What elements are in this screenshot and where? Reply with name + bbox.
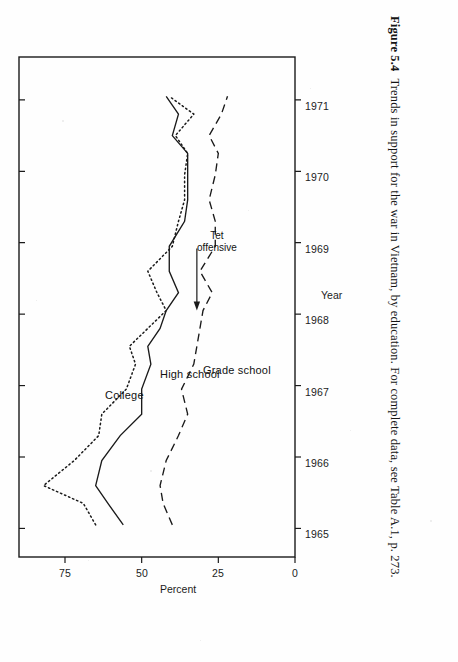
scan-speck: [36, 300, 37, 301]
scan-speck: [62, 120, 64, 122]
plot-area: 19651966196719681969197019710255075YearP…: [9, 43, 339, 603]
ytick-label-50: 50: [136, 567, 148, 579]
figure-number: Figure 5.4: [388, 16, 402, 71]
caption-text: Trends in support for the war in Vietnam…: [388, 78, 402, 577]
series-line-grade-school: [160, 96, 227, 525]
ytick-label-25: 25: [212, 567, 224, 579]
xtick-label-1970: 1970: [305, 171, 329, 183]
ytick-label-0: 0: [292, 567, 298, 579]
xtick-label-1965: 1965: [305, 528, 329, 540]
xtick-label-1968: 1968: [305, 314, 329, 326]
ytick-label-75: 75: [59, 567, 71, 579]
scan-speck: [310, 88, 311, 89]
tet-arrow-head: [194, 302, 200, 311]
chart-canvas: [9, 43, 339, 603]
scan-speck: [248, 210, 249, 211]
tet-offensive-annotation: Tetoffensive: [197, 229, 237, 252]
scan-speck: [88, 560, 89, 561]
figure-block: 19651966196719681969197019710255075YearP…: [9, 43, 339, 603]
series-label-college: College: [105, 389, 144, 401]
tet-annotation-line-1: Tet: [197, 229, 237, 241]
scan-speck: [150, 470, 152, 472]
xtick-label-1969: 1969: [305, 243, 329, 255]
figure-caption: Figure 5.4Trends in support for the war …: [387, 16, 402, 656]
scan-speck: [430, 520, 432, 522]
scan-speck: [392, 300, 393, 301]
caption-block: Figure 5.4Trends in support for the war …: [380, 16, 402, 656]
y-axis-title: Percent: [160, 583, 196, 595]
xtick-label-1971: 1971: [305, 100, 329, 112]
tet-annotation-line-2: offensive: [197, 241, 237, 253]
series-label-grade-school: Grade school: [203, 364, 271, 376]
x-axis-title: Year: [321, 289, 342, 301]
series-line-college: [44, 96, 194, 525]
xtick-label-1966: 1966: [305, 457, 329, 469]
scanned-page: 19651966196719681969197019710255075YearP…: [0, 0, 458, 662]
series-line-high-school: [96, 96, 188, 525]
scan-speck: [200, 640, 201, 641]
xtick-label-1967: 1967: [305, 386, 329, 398]
scan-speck: [350, 430, 351, 431]
